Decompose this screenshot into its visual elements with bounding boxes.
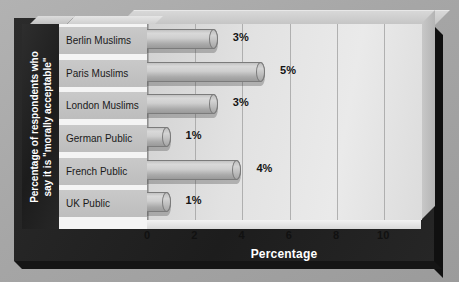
x-tick-label-4: 4 [238, 229, 244, 241]
y-axis-title: Percentage of respondents who say it is … [28, 24, 54, 229]
bar-end-cap [162, 192, 171, 212]
category-label-uk-public: UK Public [59, 190, 147, 217]
x-axis-ticks: 0246810 [147, 229, 421, 245]
bar-end-cap [209, 29, 218, 49]
bar-value-label: 1% [186, 194, 202, 206]
category-label-text: UK Public [59, 198, 110, 209]
bar-value-label: 5% [280, 64, 296, 76]
category-label-berlin-muslims: Berlin Muslims [59, 27, 147, 54]
category-label-text: German Public [59, 133, 132, 144]
plot-floor [147, 220, 421, 229]
x-tick-label-6: 6 [286, 229, 292, 241]
category-label-text: Berlin Muslims [59, 35, 131, 46]
category-label-text: London Muslims [59, 100, 139, 111]
bar-value-label: 4% [256, 162, 272, 174]
category-axis-panel: Berlin MuslimsParis MuslimsLondon Muslim… [59, 24, 147, 229]
bar[interactable] [141, 62, 265, 82]
board-right-edge [434, 26, 443, 278]
category-label-text: Paris Muslims [59, 68, 128, 79]
bar-value-label: 3% [233, 31, 249, 43]
bar[interactable] [141, 29, 218, 49]
bar-row: 5% [147, 57, 421, 90]
bar-row: 3% [147, 89, 421, 122]
bar[interactable] [141, 160, 241, 180]
bar-value-label: 3% [233, 96, 249, 108]
bar-end-cap [256, 62, 265, 82]
x-tick-label-8: 8 [333, 229, 339, 241]
bar-row: 4% [147, 155, 421, 188]
y-axis-title-line-1: Percentage of respondents who [28, 24, 41, 229]
y-axis-title-block: Percentage of respondents who say it is … [22, 24, 59, 229]
category-label-french-public: French Public [59, 158, 147, 185]
x-tick-label-2: 2 [191, 229, 197, 241]
bar-end-cap [162, 127, 171, 147]
bar-end-cap [209, 94, 218, 114]
category-label-text: French Public [59, 166, 127, 177]
bar[interactable] [141, 94, 218, 114]
chart-container: 3%5%3%1%4%1% Berlin MuslimsParis Muslims… [0, 0, 459, 282]
plot-right-face-3d [421, 10, 435, 220]
bar-row: 3% [147, 24, 421, 57]
category-label-london-muslims: London Muslims [59, 92, 147, 119]
category-label-paris-muslims: Paris Muslims [59, 60, 147, 87]
x-tick-label-0: 0 [144, 229, 150, 241]
category-label-german-public: German Public [59, 125, 147, 152]
x-axis-title: Percentage [147, 247, 421, 261]
bar-row: 1% [147, 187, 421, 220]
y-axis-title-line-2: say it is "morally acceptable" [41, 24, 54, 229]
bar-value-label: 1% [186, 129, 202, 141]
bars-layer: 3%5%3%1%4%1% [147, 24, 421, 220]
x-tick-label-10: 10 [377, 229, 389, 241]
bar-row: 1% [147, 122, 421, 155]
board-bottom-edge [14, 261, 442, 269]
category-panel-top-bevel [67, 16, 163, 24]
plot-top-face-3d [119, 10, 450, 25]
